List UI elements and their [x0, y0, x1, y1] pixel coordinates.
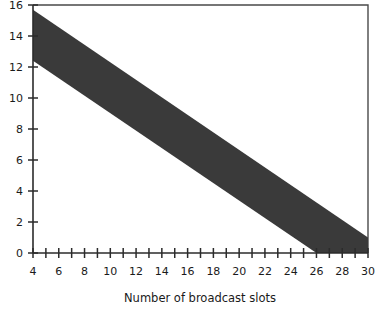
broadcast-slots-chart: 0246810121416 4681012141618202224262830 … [0, 0, 384, 318]
x-tick-label: 30 [361, 265, 375, 278]
y-tick-label: 4 [16, 185, 23, 198]
x-tick-label: 16 [181, 265, 195, 278]
x-tick-label: 8 [81, 265, 88, 278]
x-axis-title: Number of broadcast slots [124, 291, 276, 305]
x-tick-label: 22 [258, 265, 272, 278]
x-tick-label: 12 [129, 265, 143, 278]
x-tick-label: 18 [206, 265, 220, 278]
x-tick-label: 4 [30, 265, 37, 278]
y-tick-label: 16 [9, 0, 23, 12]
x-tick-label: 10 [103, 265, 117, 278]
x-tick-label: 24 [284, 265, 298, 278]
x-tick-label: 28 [335, 265, 349, 278]
y-tick-label: 2 [16, 216, 23, 229]
x-tick-label: 26 [309, 265, 323, 278]
y-tick-label: 10 [9, 92, 23, 105]
x-tick-label: 6 [55, 265, 62, 278]
chart-container: 0246810121416 4681012141618202224262830 … [0, 0, 384, 318]
y-tick-label: 14 [9, 30, 23, 43]
y-tick-label: 12 [9, 61, 23, 74]
x-tick-label: 14 [155, 265, 169, 278]
y-tick-label: 8 [16, 123, 23, 136]
x-tick-label: 20 [232, 265, 246, 278]
y-tick-label: 6 [16, 154, 23, 167]
y-tick-label: 0 [16, 247, 23, 260]
